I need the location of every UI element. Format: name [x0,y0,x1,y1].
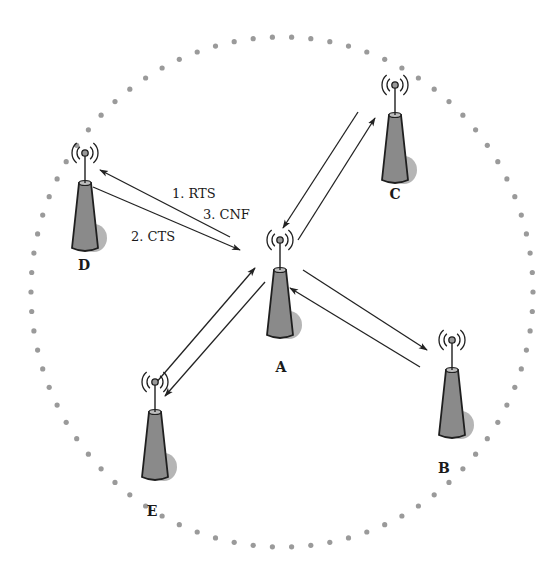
node-label-e: E [147,503,158,519]
wave-arc [439,330,444,350]
boundary-dot [112,99,117,104]
boundary-dot [485,436,490,441]
boundary-dot [47,194,52,199]
wave-arc [147,376,150,388]
boundary-dot [473,127,478,132]
boundary-dot [99,113,104,118]
boundary-dot [195,49,200,54]
boundary-dot [127,87,132,92]
boundary-dot [504,176,509,181]
boundary-dot [86,452,91,457]
nodes-layer [72,75,474,481]
wave-arc [272,234,275,246]
node-label-a: A [275,359,288,375]
tower-body [267,270,293,338]
boundary-dot [232,39,237,44]
boundary-dot [86,127,91,132]
boundary-dot [99,466,104,471]
boundary-dot [31,251,36,256]
boundary-dot [524,231,529,236]
boundary-dot [40,366,45,371]
boundary-dot [35,348,40,353]
tower-node-a [267,230,302,339]
diagram-canvas: 1. RTS 3. CNF 2. CTS A B C D E [0,0,560,575]
boundary-dot [270,544,275,549]
tower-node-d [72,143,107,252]
boundary-dot [55,403,60,408]
boundary-dot [213,44,218,49]
links-layer [93,112,427,396]
boundary-dot [35,231,40,236]
boundary-dot [346,535,351,540]
wave-arc [285,234,288,246]
tower-body [72,183,98,251]
wave-arc [142,372,147,392]
boundary-dot [519,213,524,218]
boundary-dot [382,57,387,62]
boundary-dot [524,348,529,353]
boundary-dot [213,535,218,540]
boundary-dot [308,36,313,41]
wave-arc [382,75,387,95]
boundary-dot [195,529,200,534]
boundary-dot [55,176,60,181]
antenna-tip [152,379,158,385]
wave-arc [163,372,168,392]
arrow-c-to-a [283,112,358,228]
boundary-dot [112,480,117,485]
boundary-dot [528,251,533,256]
boundary-dot [530,289,535,294]
arrow-b-to-a [290,288,420,367]
boundary-dot [177,522,182,527]
boundary-dot [251,543,256,548]
wave-arc [90,147,93,159]
boundary-dot [47,385,52,390]
boundary-dot [446,480,451,485]
boundary-dot [308,543,313,548]
tower-node-c [382,75,417,184]
label-cts: 2. CTS [131,229,175,244]
wave-arc [267,230,272,250]
tower-body [382,115,408,183]
boundary-dot [289,544,294,549]
wave-arc [460,330,465,350]
antenna-tip [392,82,398,88]
boundary-dot [432,492,437,497]
boundary-dot [399,65,404,70]
label-rts: 1. RTS [172,186,216,201]
wave-arc [387,79,390,91]
boundary-dot [64,159,69,164]
tower-body [142,412,168,480]
boundary-dot [364,529,369,534]
boundary-dot [251,36,256,41]
boundary-dot [364,49,369,54]
wave-arc [93,143,98,163]
antenna-tip [449,337,455,343]
node-label-c: C [389,186,400,202]
boundary-dot [485,143,490,148]
arrow-a-to-c [298,118,375,240]
boundary-dot [127,492,132,497]
boundary-dot [399,513,404,518]
boundary-dot [416,503,421,508]
boundary-dot [143,75,148,80]
boundary-dot [74,436,79,441]
boundary-dot [160,513,165,518]
node-label-d: D [78,257,90,273]
boundary-dot [40,213,45,218]
wave-arc [77,147,80,159]
arrow-e-to-a [155,268,255,384]
boundary-dot [232,540,237,545]
wave-arc [288,230,293,250]
boundary-dot [64,420,69,425]
boundary-dot [382,522,387,527]
boundary-dot [160,65,165,70]
boundary-dot [289,35,294,40]
boundary-dot [495,159,500,164]
boundary-dot [327,39,332,44]
tower-node-b [439,330,474,439]
arrow-a-to-b [303,270,427,350]
node-label-b: B [438,460,450,476]
boundary-dot [512,194,517,199]
wave-arc [457,334,460,346]
